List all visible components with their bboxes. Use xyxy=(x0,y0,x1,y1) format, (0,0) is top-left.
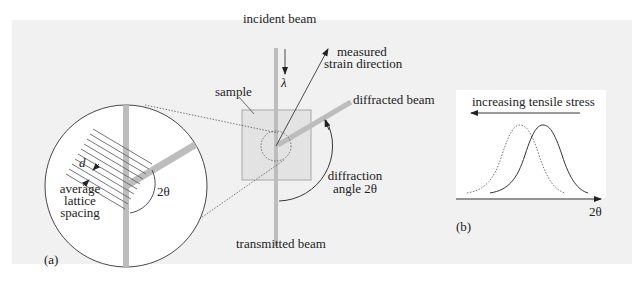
diffracted-beam-label: diffracted beam xyxy=(353,93,435,107)
wavelength-label: λ xyxy=(281,76,287,90)
inset-angle-label: 2θ xyxy=(157,185,170,199)
sample-label: sample xyxy=(215,85,252,99)
transmitted-beam-label: transmitted beam xyxy=(236,237,326,251)
angle-2theta-label: angle 2θ xyxy=(325,182,385,196)
incident-beam-label: incident beam xyxy=(243,12,316,26)
panel-a-label: (a) xyxy=(44,253,58,267)
lattice-label-3: spacing xyxy=(55,206,105,220)
strain-direction-label: strain direction xyxy=(324,57,402,71)
panel-b-label: (b) xyxy=(456,220,471,234)
x-axis-label: 2θ xyxy=(589,205,602,219)
stress-caption: increasing tensile stress xyxy=(472,95,595,109)
d-symbol-label: d xyxy=(79,156,86,170)
